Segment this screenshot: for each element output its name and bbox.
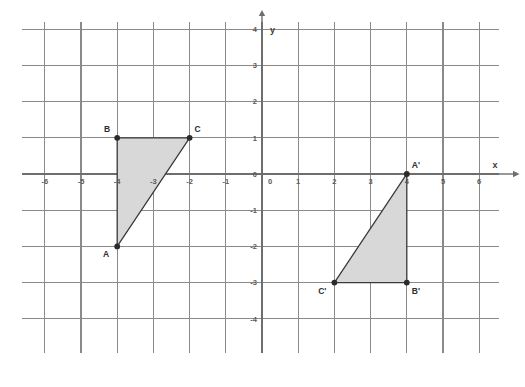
vertex-label: C'	[318, 286, 326, 296]
x-tick-label: 2	[332, 177, 336, 186]
vertex-point	[404, 280, 410, 286]
x-axis-label: x	[492, 160, 497, 170]
y-axis-arrow-icon	[259, 10, 265, 16]
coordinate-plane-svg: xy -6-5-4-3-2-10123456-4-3-2-101234 ABCA…	[0, 0, 525, 387]
vertex-point	[114, 135, 120, 141]
x-tick-label: -2	[186, 177, 193, 186]
x-tick-label: -4	[114, 177, 121, 186]
y-tick-label: -3	[250, 278, 257, 287]
vertex-label: A'	[412, 160, 420, 170]
vertex-label: B'	[412, 286, 420, 296]
y-tick-label: -4	[250, 315, 257, 324]
vertex-point	[114, 244, 120, 250]
x-tick-label: -3	[150, 177, 157, 186]
x-tick-label: -5	[78, 177, 85, 186]
y-tick-label: 0	[253, 170, 257, 179]
x-tick-label: 1	[296, 177, 300, 186]
grid-lines	[22, 22, 499, 353]
y-tick-label: 1	[253, 134, 257, 143]
y-axis-label: y	[270, 25, 275, 35]
x-tick-label: 6	[477, 177, 481, 186]
y-tick-label: 2	[253, 97, 257, 106]
x-tick-label: -1	[222, 177, 229, 186]
y-tick-label: -1	[250, 206, 257, 215]
x-tick-label: 5	[441, 177, 445, 186]
x-tick-label: 0	[268, 177, 272, 186]
vertex-label: B	[104, 124, 110, 134]
coordinate-plane-figure: xy -6-5-4-3-2-10123456-4-3-2-101234 ABCA…	[0, 0, 525, 387]
vertex-label: C	[195, 124, 201, 134]
vertex-point	[187, 135, 193, 141]
y-tick-label: -2	[250, 242, 257, 251]
y-tick-label: 3	[253, 61, 257, 70]
x-tick-label: 4	[405, 177, 410, 186]
x-tick-label: -6	[41, 177, 48, 186]
x-tick-label: 3	[369, 177, 373, 186]
vertex-label: A	[103, 249, 109, 259]
x-axis-arrow-icon	[513, 171, 520, 177]
vertex-point	[332, 280, 338, 286]
